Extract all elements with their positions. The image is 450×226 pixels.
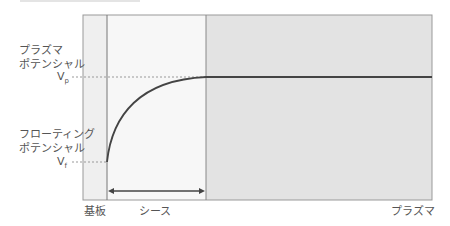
substrate-region xyxy=(83,15,107,200)
floating-potential-label-line1: フローティング xyxy=(19,128,95,142)
plasma-label: プラズマ xyxy=(391,205,435,219)
substrate-label: 基板 xyxy=(84,205,106,219)
sheath-region xyxy=(107,15,206,200)
floating-potential-label-line2: ポテンシャル xyxy=(19,142,85,156)
vf-label: Vf xyxy=(57,155,67,170)
vp-label: Vp xyxy=(57,70,69,85)
plasma-potential-label-line1: プラズマ xyxy=(19,44,63,58)
plasma-region xyxy=(206,15,432,200)
potential-diagram xyxy=(0,0,450,226)
sheath-label: シース xyxy=(139,205,171,219)
plasma-potential-label-line2: ポテンシャル xyxy=(19,58,85,72)
